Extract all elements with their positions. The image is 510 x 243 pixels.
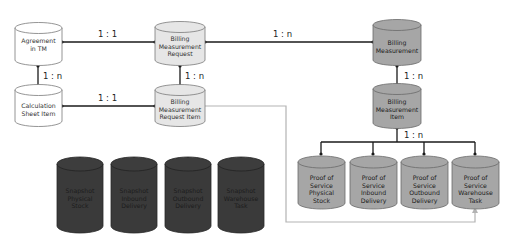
node-pos-outbound-delivery[interactable]: Proof of Service Outbound Delivery [401,156,448,209]
node-snapshot-inbound-delivery[interactable]: Snapshot Inbound Delivery [111,157,157,233]
cardinality-calc-bmritem: 1 : 1 [98,93,117,103]
node-label-line: Delivery [121,202,147,210]
node-label-line: Agreement [21,37,56,45]
node-pos-physical-stock[interactable]: Proof of Service Physical Stock [298,156,345,209]
node-label-line: Stock [71,202,89,209]
node-label-line: Service [413,182,436,189]
node-label-line: Delivery [361,197,387,205]
node-label-line: Warehouse [224,195,259,202]
node-label-line: Delivery [175,202,201,210]
entity-diagram: 1 : 1 1 : n 1 : n 1 : n 1 : 1 1 : n 1 : … [0,0,510,243]
node-label-line: Measurement [159,43,202,50]
node-snapshot-outbound-delivery[interactable]: Snapshot Outbound Delivery [165,157,211,233]
cardinality-agreement-calc: 1 : n [43,71,62,81]
cardinality-agreement-bmr: 1 : 1 [98,29,117,39]
node-agreement-in-tm[interactable]: Agreement in TM [15,23,62,66]
node-label-line: in TM [30,45,47,52]
node-calculation-sheet-item[interactable]: Calculation Sheet Item [15,85,62,127]
cardinality-labels: 1 : 1 1 : n 1 : n 1 : n 1 : 1 1 : n 1 : … [43,29,423,140]
node-label-line: Request [167,50,193,58]
node-label-line: Proof of [362,174,387,181]
node-pos-inbound-delivery[interactable]: Proof of Service Inbound Delivery [350,156,397,209]
node-label-line: Service [362,182,385,189]
cardinality-bmitem-pos: 1 : n [404,130,423,140]
node-label-line: Outbound [409,189,440,196]
node-label-line: Inbound [361,189,386,196]
node-label-line: Task [233,202,248,209]
node-billing-measurement-request-item[interactable]: Billing Measurement Request Item [155,85,205,127]
node-label-line: Measurement [376,47,419,54]
node-label-line: Sheet Item [22,110,56,117]
node-billing-measurement-item[interactable]: Billing Measurement Item [373,84,421,129]
node-label-line: Proof of [310,174,335,181]
node-label-line: Proof of [464,174,489,181]
node-billing-measurement[interactable]: Billing Measurement [373,20,421,66]
node-billing-measurement-request[interactable]: Billing Measurement Request [155,22,205,66]
node-label-line: Measurement [376,106,419,113]
cardinality-bmr-bm: 1 : n [273,29,292,39]
node-label-line: Item [390,113,404,120]
node-label-line: Request Item [159,113,200,121]
node-label-line: Task [468,197,483,204]
node-label-line: Outbound [173,195,204,202]
node-pos-warehouse-task[interactable]: Proof of Service Warehouse Task [452,156,499,209]
cardinality-bmr-bmritem: 1 : n [185,71,204,81]
node-label-line: Inbound [121,195,146,202]
node-label-line: Stock [313,197,331,204]
node-snapshot-warehouse-task[interactable]: Snapshot Warehouse Task [218,157,264,233]
cardinality-bm-bmitem: 1 : n [404,71,423,81]
node-label-line: Service [464,182,487,189]
node-label-line: Warehouse [458,189,493,196]
node-label-line: Calculation [21,102,56,109]
node-label-line: Service [310,182,333,189]
node-snapshot-physical-stock[interactable]: Snapshot Physical Stock [57,157,103,233]
node-label-line: Proof of [413,174,438,181]
node-label-line: Measurement [159,106,202,113]
node-label-line: Delivery [412,197,438,205]
